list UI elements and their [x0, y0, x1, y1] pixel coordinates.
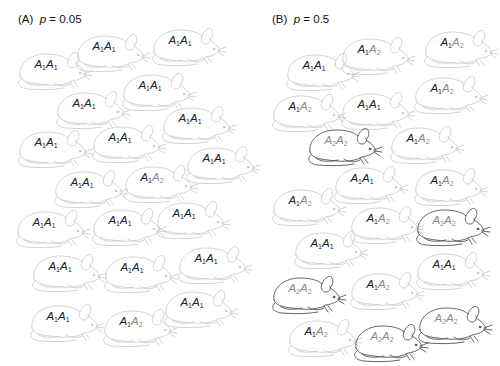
mouse-a2a2: A2A2 [268, 270, 348, 318]
panel-title-b: (B) p = 0.5 [272, 13, 329, 25]
allele-a1: A1 [168, 34, 180, 46]
allele-a1: A1 [150, 79, 162, 91]
allele-a1: A1 [430, 174, 442, 186]
mouse-a1a1: A1A1 [148, 22, 228, 70]
allele-a1: A1 [172, 207, 184, 219]
panel-title-a: (A) p = 0.05 [18, 13, 82, 25]
allele-a1: A1 [104, 40, 116, 52]
genotype-label: A1A2 [420, 82, 464, 95]
allele-a1: A1 [444, 258, 456, 270]
genotype-label: A2A2 [422, 214, 466, 227]
allele-a2: A2 [316, 325, 328, 337]
genotype-label: A1A1 [347, 98, 391, 111]
allele-a1: A1 [369, 98, 381, 110]
allele-a2: A2 [382, 330, 394, 342]
panel-letter: (A) [18, 13, 33, 25]
genotype-label: A1A2 [356, 212, 400, 225]
allele-a1: A1 [92, 40, 104, 52]
genotype-label: A1A1 [60, 176, 104, 189]
frequency-symbol: p [40, 13, 46, 25]
allele-a2: A2 [324, 134, 336, 146]
allele-a2: A2 [442, 82, 454, 94]
allele-a1: A1 [302, 59, 314, 71]
allele-a2: A2 [418, 132, 430, 144]
genotype-label: A2A2 [314, 134, 358, 147]
frequency-value: = 0.05 [49, 13, 81, 25]
frequency-symbol: p [294, 13, 300, 25]
allele-a1: A1 [72, 97, 84, 109]
mouse-a1a2: A1A2 [410, 70, 490, 118]
genotype-label: A1A2 [278, 100, 322, 113]
allele-a1: A1 [34, 136, 46, 148]
allele-a1: A1 [194, 252, 206, 264]
allele-a1: A1 [120, 261, 132, 273]
genotype-label: A1A1 [82, 40, 126, 53]
allele-a1: A1 [314, 59, 326, 71]
genotype-label: A1A1 [300, 237, 344, 250]
mouse-a1a1: A1A1 [12, 204, 92, 252]
allele-a1: A1 [70, 176, 82, 188]
allele-a1: A1 [184, 207, 196, 219]
allele-a1: A1 [32, 216, 44, 228]
allele-a1: A1 [140, 171, 152, 183]
allele-a2: A2 [442, 174, 454, 186]
allele-a2: A2 [370, 330, 382, 342]
genotype-label: A1A2 [294, 325, 338, 338]
mouse-a1a2: A1A2 [337, 31, 417, 79]
genotype-label: A1A1 [22, 216, 66, 229]
mouse-a1a1: A1A1 [174, 240, 254, 288]
allele-a2: A2 [300, 100, 312, 112]
allele-a1: A1 [304, 325, 316, 337]
allele-a1: A1 [120, 214, 132, 226]
genotype-label: A1A2 [130, 171, 174, 184]
allele-a1: A1 [190, 112, 202, 124]
mouse-a1a2: A1A2 [420, 24, 500, 72]
genotype-label: A1A1 [168, 112, 212, 125]
allele-a1: A1 [357, 43, 369, 55]
genotype-label: A1A1 [184, 252, 228, 265]
genotype-label: A2A2 [424, 312, 468, 325]
genotype-label: A1A1 [162, 207, 206, 220]
allele-a1: A1 [206, 252, 218, 264]
allele-a2: A2 [378, 212, 390, 224]
genotype-label: A1A2 [109, 315, 153, 328]
genotype-label: A1A2 [278, 194, 322, 207]
allele-a1: A1 [430, 82, 442, 94]
allele-a1: A1 [180, 34, 192, 46]
mouse-a1a1: A1A1 [28, 248, 108, 296]
genotype-label: A2A2 [278, 282, 322, 295]
mouse-a2a2: A2A2 [350, 318, 430, 366]
genotype-label: A1A1 [36, 310, 80, 323]
genotype-label: A1A1 [128, 79, 172, 92]
allele-a1: A1 [288, 100, 300, 112]
allele-a1: A1 [132, 261, 144, 273]
allele-a2: A2 [434, 312, 446, 324]
mouse-a1a1: A1A1 [152, 195, 232, 243]
genotype-label: A1A2 [420, 174, 464, 187]
allele-a1: A1 [350, 172, 362, 184]
frequency-value: = 0.5 [303, 13, 329, 25]
genotype-label: A1A1 [292, 59, 336, 72]
allele-a1: A1 [440, 36, 452, 48]
allele-a1: A1 [60, 260, 72, 272]
allele-a1: A1 [202, 152, 214, 164]
allele-a1: A1 [34, 58, 46, 70]
mouse-a1a2: A1A2 [268, 182, 348, 230]
allele-a1: A1 [46, 136, 58, 148]
allele-a2: A2 [444, 214, 456, 226]
mouse-a1a1: A1A1 [26, 298, 106, 346]
genotype-label: A1A1 [24, 136, 68, 149]
genotype-label: A1A2 [430, 36, 474, 49]
allele-a1: A1 [84, 97, 96, 109]
allele-a1: A1 [366, 278, 378, 290]
allele-a1: A1 [362, 172, 374, 184]
allele-a2: A2 [369, 43, 381, 55]
genotype-label: A1A1 [38, 260, 82, 273]
allele-a1: A1 [108, 131, 120, 143]
allele-a1: A1 [58, 310, 70, 322]
genotype-label: A1A1 [422, 258, 466, 271]
genotype-label: A1A2 [356, 278, 400, 291]
allele-a1: A1 [288, 194, 300, 206]
mouse-a1a1: A1A1 [160, 284, 240, 332]
allele-a1: A1 [322, 237, 334, 249]
